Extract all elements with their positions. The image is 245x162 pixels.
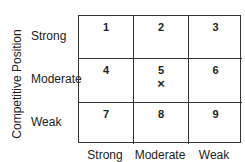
- matrix-cell-2: 2: [134, 16, 189, 59]
- cell-number: 8: [134, 108, 188, 120]
- matrix-cell-3: 3: [189, 16, 242, 59]
- col-label-strong: Strong: [87, 148, 122, 162]
- row-label-strong: Strong: [31, 29, 66, 43]
- matrix-cell-5: 5 ×: [134, 59, 189, 103]
- cell-number: 1: [79, 21, 133, 33]
- matrix-cell-4: 4: [79, 59, 134, 103]
- cell-number: 3: [189, 21, 242, 33]
- row-label-moderate: Moderate: [31, 72, 82, 86]
- matrix-cell-7: 7: [79, 103, 134, 144]
- cell-number: 6: [189, 64, 242, 76]
- cell-number: 9: [189, 108, 242, 120]
- matrix-cell-9: 9: [189, 103, 242, 144]
- cell-number: 4: [79, 64, 133, 76]
- matrix-cell-6: 6: [189, 59, 242, 103]
- col-label-moderate: Moderate: [135, 148, 186, 162]
- matrix-cell-1: 1: [79, 16, 134, 59]
- cell-number: 2: [134, 21, 188, 33]
- cell-number: 5: [134, 64, 188, 76]
- col-label-weak: Weak: [199, 148, 229, 162]
- matrix-cell-8: 8: [134, 103, 189, 144]
- position-matrix: 1 2 3 4 5 × 6 7 8 9: [78, 15, 241, 143]
- cell-number: 7: [79, 108, 133, 120]
- x-mark-icon: ×: [134, 76, 188, 91]
- row-label-weak: Weak: [31, 115, 61, 129]
- y-axis-title: Competitive Position: [10, 29, 24, 138]
